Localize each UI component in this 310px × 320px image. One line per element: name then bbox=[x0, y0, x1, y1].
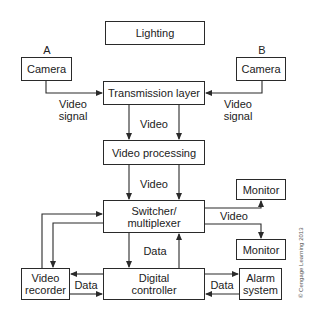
switcher-multiplexer-box: Switcher/ multiplexer bbox=[103, 200, 205, 233]
monitor-top-box: Monitor bbox=[236, 179, 286, 200]
digital-controller-label: Digital controller bbox=[131, 272, 176, 296]
lighting-box: Lighting bbox=[105, 21, 205, 45]
recorder-data-label: Data bbox=[73, 279, 99, 291]
digital-controller-box: Digital controller bbox=[103, 268, 205, 300]
camera-a-tag: A bbox=[40, 44, 54, 56]
video-recorder-label: Video recorder bbox=[25, 272, 66, 296]
alarm-system-box: Alarm system bbox=[239, 268, 282, 300]
camera-b-label: Camera bbox=[241, 63, 280, 75]
monitor-bottom-label: Monitor bbox=[243, 244, 280, 256]
camera-b-box: Camera bbox=[236, 57, 286, 81]
monitor-top-label: Monitor bbox=[243, 184, 280, 196]
edge-switcher-to-monitor-top bbox=[205, 201, 261, 208]
camera-b-signal-label: Video signal bbox=[221, 98, 255, 122]
switcher-multiplexer-label: Switcher/ multiplexer bbox=[127, 205, 180, 229]
video-processing-label: Video processing bbox=[112, 147, 196, 159]
edge-switcher-to-monitor-bottom bbox=[205, 224, 261, 238]
transmission-layer-label: Transmission layer bbox=[108, 87, 200, 99]
alarm-data-label: Data bbox=[209, 279, 235, 291]
camera-b-tag: B bbox=[255, 44, 269, 56]
transmission-layer-box: Transmission layer bbox=[103, 81, 205, 105]
video-recorder-box: Video recorder bbox=[21, 268, 70, 300]
switcher-video-label: Video bbox=[218, 210, 250, 222]
lighting-label: Lighting bbox=[136, 27, 175, 39]
cctv-system-diagram: Lighting A Camera B Camera Transmission … bbox=[0, 0, 310, 320]
camera-a-label: Camera bbox=[27, 63, 66, 75]
edge-camera-b-to-transmission bbox=[206, 81, 262, 93]
edge-recorder-to-switcher bbox=[42, 214, 102, 268]
monitor-bottom-box: Monitor bbox=[236, 239, 286, 260]
transmission-video-label: Video bbox=[138, 118, 170, 130]
edge-switcher-to-recorder bbox=[53, 223, 103, 267]
switcher-data-label: Data bbox=[142, 245, 168, 257]
camera-a-signal-label: Video signal bbox=[56, 98, 90, 122]
edge-camera-a-to-transmission bbox=[46, 81, 102, 93]
processing-video-label: Video bbox=[138, 178, 170, 190]
camera-a-box: Camera bbox=[21, 57, 72, 81]
alarm-system-label: Alarm system bbox=[243, 272, 278, 296]
copyright-text: © Cengage Learning 2013 bbox=[298, 228, 304, 298]
video-processing-box: Video processing bbox=[103, 140, 205, 165]
